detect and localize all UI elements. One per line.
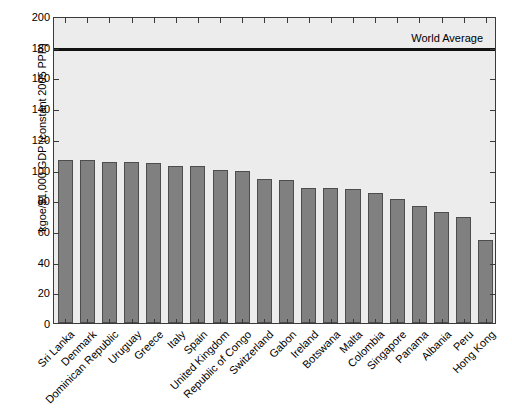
bar bbox=[58, 160, 73, 323]
top-tick-mark bbox=[198, 18, 199, 23]
y-tick-mark bbox=[54, 49, 59, 50]
bar bbox=[168, 166, 183, 323]
bar bbox=[190, 166, 205, 323]
bottom-tick-mark bbox=[309, 319, 310, 323]
world-average-label: World Average bbox=[411, 33, 483, 44]
bar bbox=[146, 163, 161, 323]
bar bbox=[235, 171, 250, 323]
top-tick-mark bbox=[132, 18, 133, 23]
bottom-tick-mark bbox=[65, 319, 66, 323]
bar bbox=[323, 188, 338, 323]
bottom-tick-mark bbox=[176, 319, 177, 323]
top-tick-mark bbox=[442, 18, 443, 23]
bottom-tick-mark bbox=[486, 319, 487, 323]
top-tick-mark bbox=[309, 18, 310, 23]
y-tick-mark-right bbox=[490, 79, 495, 80]
top-tick-mark bbox=[397, 18, 398, 23]
top-tick-mark bbox=[331, 18, 332, 23]
bottom-tick-mark bbox=[397, 319, 398, 323]
bottom-tick-mark bbox=[442, 319, 443, 323]
y-tick-mark-right bbox=[490, 110, 495, 111]
y-tick-mark bbox=[54, 110, 59, 111]
top-tick-mark bbox=[87, 18, 88, 23]
y-tick-label: 120 bbox=[10, 134, 50, 145]
bar bbox=[301, 188, 316, 323]
top-tick-mark bbox=[464, 18, 465, 23]
bottom-tick-mark bbox=[220, 319, 221, 323]
bottom-tick-mark bbox=[375, 319, 376, 323]
y-tick-mark-right bbox=[490, 141, 495, 142]
y-tick-label: 0 bbox=[10, 319, 50, 330]
bar bbox=[345, 189, 360, 323]
y-tick-mark-right bbox=[490, 294, 495, 295]
top-tick-mark bbox=[65, 18, 66, 23]
bottom-tick-mark bbox=[264, 319, 265, 323]
y-tick-label: 180 bbox=[10, 42, 50, 53]
y-tick-label: 100 bbox=[10, 165, 50, 176]
top-tick-mark bbox=[375, 18, 376, 23]
bar bbox=[213, 170, 228, 324]
plot-area: World Average bbox=[53, 17, 496, 324]
chart-figure: kgoe/$1,000 GDP (constant 2005 PPP) 0204… bbox=[0, 0, 512, 410]
bottom-tick-mark bbox=[87, 319, 88, 323]
bar bbox=[279, 180, 294, 323]
bar bbox=[478, 240, 493, 323]
y-tick-mark bbox=[54, 264, 59, 265]
bar bbox=[456, 217, 471, 323]
world-average-line bbox=[54, 48, 495, 51]
y-tick-mark bbox=[54, 141, 59, 142]
y-tick-mark-right bbox=[490, 233, 495, 234]
top-tick-mark bbox=[419, 18, 420, 23]
y-tick-label: 40 bbox=[10, 257, 50, 268]
bottom-tick-mark bbox=[353, 319, 354, 323]
y-tick-mark bbox=[54, 79, 59, 80]
y-tick-mark-right bbox=[490, 264, 495, 265]
bottom-tick-mark bbox=[154, 319, 155, 323]
bottom-tick-mark bbox=[331, 319, 332, 323]
top-tick-mark bbox=[220, 18, 221, 23]
bar bbox=[257, 179, 272, 323]
top-tick-mark bbox=[264, 18, 265, 23]
y-tick-mark-right bbox=[490, 172, 495, 173]
y-tick-mark bbox=[54, 233, 59, 234]
bottom-tick-mark bbox=[287, 319, 288, 323]
top-tick-mark bbox=[109, 18, 110, 23]
bar bbox=[124, 162, 139, 323]
top-tick-mark bbox=[287, 18, 288, 23]
bottom-tick-mark bbox=[132, 319, 133, 323]
bar bbox=[368, 193, 383, 323]
bar bbox=[102, 162, 117, 323]
bottom-tick-mark bbox=[242, 319, 243, 323]
y-tick-mark-right bbox=[490, 49, 495, 50]
y-tick-mark bbox=[54, 202, 59, 203]
y-tick-mark bbox=[54, 172, 59, 173]
y-tick-label: 60 bbox=[10, 226, 50, 237]
bar bbox=[390, 199, 405, 323]
y-tick-label: 140 bbox=[10, 104, 50, 115]
top-tick-mark bbox=[486, 18, 487, 23]
top-tick-mark bbox=[242, 18, 243, 23]
top-tick-mark bbox=[154, 18, 155, 23]
top-tick-mark bbox=[176, 18, 177, 23]
bottom-tick-mark bbox=[464, 319, 465, 323]
y-tick-label: 160 bbox=[10, 73, 50, 84]
bar bbox=[412, 206, 427, 323]
top-tick-mark bbox=[353, 18, 354, 23]
bar bbox=[80, 160, 95, 323]
y-tick-mark-right bbox=[490, 202, 495, 203]
bottom-tick-mark bbox=[198, 319, 199, 323]
y-tick-label: 80 bbox=[10, 196, 50, 207]
y-tick-mark bbox=[54, 294, 59, 295]
bottom-tick-mark bbox=[419, 319, 420, 323]
bottom-tick-mark bbox=[109, 319, 110, 323]
y-tick-label: 20 bbox=[10, 288, 50, 299]
bar bbox=[434, 212, 449, 323]
y-tick-label: 200 bbox=[10, 12, 50, 23]
